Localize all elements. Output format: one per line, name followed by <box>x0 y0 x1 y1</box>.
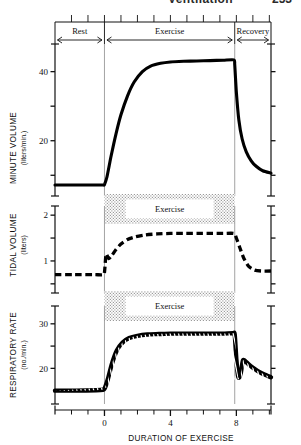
ventilation-figure: Ventilation 253 MINUTE VOLUME (liters/mi… <box>0 0 301 445</box>
x-tick-label: 0 <box>102 418 107 428</box>
tidal-volume-curve <box>55 233 271 275</box>
panel-3-ytick-label: 20 <box>39 364 49 374</box>
x-axis-title: DURATION OF EXERCISE <box>128 434 234 443</box>
three-panel-ventilation-plot: MINUTE VOLUME (liters/min.) TIDAL VOLUME… <box>0 0 301 445</box>
x-tick-label: 4 <box>168 418 173 428</box>
book-running-head: Ventilation <box>168 0 233 6</box>
panel-tidal-volume: Exercise12 <box>44 194 276 293</box>
page-number: 253 <box>272 0 292 6</box>
x-tick-label: 8 <box>234 418 239 428</box>
panel-2-ytick-label: 1 <box>44 256 49 266</box>
phase-label-exercise: Exercise <box>155 26 184 36</box>
panel-3-axis-subtitle: (no./min.) <box>20 340 28 370</box>
phase-label-rest: Rest <box>72 26 88 36</box>
panel-2-axis-title: TIDAL VOLUME <box>9 213 18 277</box>
minute-volume-curve <box>55 60 271 185</box>
exercise-band-tidal-label: Exercise <box>155 204 184 214</box>
exercise-band-respiratory: Exercise <box>104 291 234 321</box>
panel-1-ytick-label: 20 <box>39 136 49 146</box>
phase-band: RestExerciseRecovery <box>55 15 271 44</box>
phase-label-recovery: Recovery <box>237 26 270 36</box>
panel-respiratory-rate: Exercise2030 <box>0 291 301 418</box>
panel-1-axis-title-group: MINUTE VOLUME (liters/min.) <box>9 112 28 184</box>
panel-2-axis-subtitle: (liters) <box>20 235 28 254</box>
x-axis: 048 <box>55 406 271 429</box>
page-header: Ventilation 253 <box>0 0 301 8</box>
panel-1-axis-title: MINUTE VOLUME <box>9 112 18 184</box>
exercise-band-respiratory-label: Exercise <box>155 301 184 311</box>
panel-2-ytick-label: 2 <box>44 210 49 220</box>
panel-3-axis-title-group: RESPIRATORY RATE (no./min.) <box>9 312 28 398</box>
panel-3-ytick-label: 30 <box>39 319 49 329</box>
panel-minute-volume: 2040 <box>39 44 276 196</box>
panel-1-axis-subtitle: (liters/min.) <box>20 131 28 166</box>
exercise-band-tidal: Exercise <box>104 194 234 224</box>
panel-2-axis-title-group: TIDAL VOLUME (liters) <box>9 213 28 277</box>
panel-1-ytick-label: 40 <box>39 67 49 77</box>
panel-3-axis-title: RESPIRATORY RATE <box>9 312 18 398</box>
